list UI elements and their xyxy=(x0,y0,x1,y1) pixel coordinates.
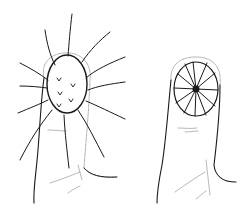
right-fingertip-figure xyxy=(157,57,236,203)
illustration-canvas xyxy=(0,0,250,218)
sketch-drawing xyxy=(0,0,250,218)
left-fingertip-figure xyxy=(18,14,125,203)
